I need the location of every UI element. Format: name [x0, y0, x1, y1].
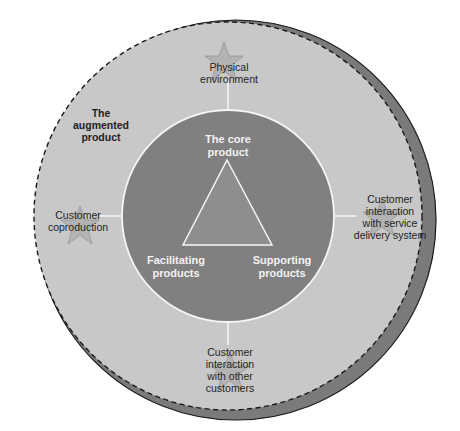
- label-line: with other: [190, 370, 270, 382]
- supporting-products-label: Supporting products: [242, 254, 322, 280]
- label-line: products: [136, 267, 216, 280]
- physical-environment-label: Physical environment: [184, 61, 274, 85]
- label-line: environment: [184, 73, 274, 85]
- label-line: product: [66, 131, 136, 143]
- label-line: The core: [188, 133, 268, 146]
- label-line: product: [188, 146, 268, 159]
- augmented-product-label: The augmented product: [66, 107, 136, 143]
- core-product-label: The core product: [188, 133, 268, 159]
- label-line: Supporting: [242, 254, 322, 267]
- label-line: Customer: [340, 193, 440, 205]
- other-customers-label: Customer interaction with other customer…: [190, 346, 270, 394]
- label-line: with service: [340, 217, 440, 229]
- facilitating-products-label: Facilitating products: [136, 254, 216, 280]
- label-line: products: [242, 267, 322, 280]
- label-line: Customer: [190, 346, 270, 358]
- label-line: customers: [190, 382, 270, 394]
- label-line: Customer: [38, 209, 118, 221]
- service-delivery-label: Customer interaction with service delive…: [340, 193, 440, 241]
- label-line: The: [66, 107, 136, 119]
- label-line: interaction: [190, 358, 270, 370]
- label-line: augmented: [66, 119, 136, 131]
- label-line: Facilitating: [136, 254, 216, 267]
- label-line: coproduction: [38, 221, 118, 233]
- coproduction-label: Customer coproduction: [38, 209, 118, 233]
- label-line: delivery system: [340, 229, 440, 241]
- label-line: Physical: [184, 61, 274, 73]
- label-line: interaction: [340, 205, 440, 217]
